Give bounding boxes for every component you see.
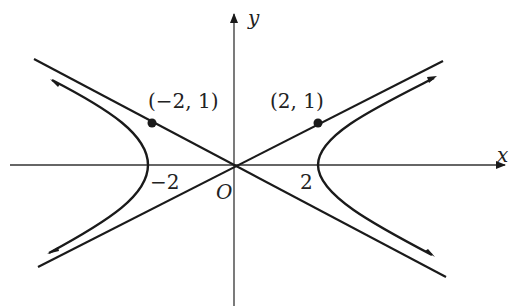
point-label-2-1: (2, 1): [270, 91, 324, 111]
point-label-neg2-1: (−2, 1): [148, 91, 219, 111]
y-axis-label: y: [248, 8, 259, 28]
hyperbola-left-branch: [49, 80, 148, 253]
point-neg2-1: [148, 119, 157, 128]
x-axis-label: x: [497, 145, 508, 165]
tick-label-neg2: −2: [150, 172, 179, 192]
hyperbola-right-branch: [318, 78, 434, 255]
hyperbola-diagram: [0, 0, 512, 306]
origin-label: O: [216, 182, 232, 202]
point-2-1: [314, 119, 323, 128]
asymptote-positive-slope: [38, 61, 443, 267]
tick-label-2: 2: [300, 172, 313, 192]
